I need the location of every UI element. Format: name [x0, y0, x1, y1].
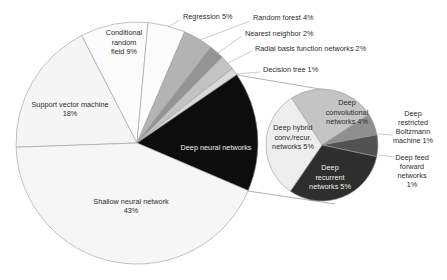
leader-line-deep-restricted-boltzmann-machine — [378, 134, 393, 135]
callout-label-deep-restricted-boltzmann-machine: DeeprestrictedBoltzmannmachine 1% — [393, 109, 434, 146]
callout-label-regression: Regression 5% — [183, 12, 233, 21]
leader-line-random-forest — [200, 21, 250, 40]
chart-svg: Support vector machine18%Conditionalrand… — [0, 0, 447, 280]
slice-label-deep-hybrid-networks: Deep hybridconv./recur.networks 5% — [272, 123, 314, 150]
leader-line-nearest-neighbor — [218, 36, 242, 53]
callout-label-deep-feed-forward-networks: Deep feedforwardnetworks1% — [395, 153, 429, 190]
sub-pie-connector-top — [237, 75, 326, 90]
leader-line-radial-basis-function-networks — [228, 51, 252, 63]
leader-line-regression — [168, 20, 180, 27]
callout-label-decision-tree: Decision tree 1% — [263, 65, 319, 74]
slice-label-deep-neural-networks: Deep neural networks — [181, 143, 252, 152]
callout-label-nearest-neighbor: Nearest neighbor 2% — [245, 29, 314, 38]
callout-label-random-forest: Random forest 4% — [253, 13, 314, 22]
pie-of-pie-figure: Support vector machine18%Conditionalrand… — [0, 0, 447, 280]
leader-line-deep-feed-forward-networks — [379, 155, 394, 157]
leader-line-decision-tree — [236, 72, 260, 74]
callout-label-radial-basis-function-networks: Radial basis function networks 2% — [255, 44, 367, 53]
